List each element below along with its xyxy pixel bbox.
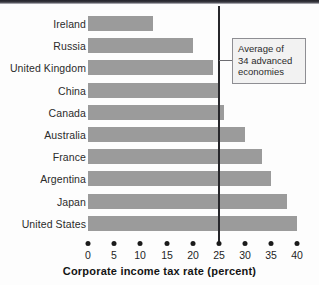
category-label-china: China [58,85,86,96]
x-tick-label: 35 [265,249,277,261]
category-label-australia: Australia [44,129,86,140]
x-tick-label: 30 [239,249,251,261]
bar-united-kingdom [88,60,213,75]
callout-line-2: 34 advanced [238,55,300,67]
category-label-united-states: United States [22,218,86,229]
axis-tick-dot [295,241,300,246]
axis-tick-dot [86,241,91,246]
x-tick-label: 10 [134,249,146,261]
callout-line-3: economies [238,66,300,78]
corporate-tax-rate-bar-chart: Ireland Russia United Kingdom China Cana… [0,0,319,285]
bar-ireland [88,16,153,31]
bar-row: China [0,83,319,98]
bar-row: Australia [0,127,319,142]
category-label-argentina: Argentina [40,173,86,184]
x-axis-title: Corporate income tax rate (percent) [0,265,319,277]
category-label-canada: Canada [49,107,86,118]
bar-row: Japan [0,194,319,209]
bar-australia [88,127,245,142]
axis-tick-dot [243,241,248,246]
category-label-russia: Russia [53,40,86,51]
x-tick-label: 25 [213,249,225,261]
category-label-france: France [53,151,86,162]
axis-tick-dot [269,241,274,246]
category-label-japan: Japan [57,196,86,207]
bar-japan [88,194,287,209]
bar-row: France [0,149,319,164]
callout-line-1: Average of [238,43,300,55]
bar-russia [88,38,193,53]
axis-tick-dot [112,241,117,246]
x-axis-tick-labels: 0 5 10 15 20 25 30 35 40 [0,249,319,263]
plot-area: Ireland Russia United Kingdom China Cana… [0,0,319,285]
bar-row: United States [0,216,319,231]
x-tick-label: 40 [291,249,303,261]
bar-row: Argentina [0,171,319,186]
bar-row: Canada [0,105,319,120]
x-tick-label: 0 [85,249,91,261]
average-annotation-callout: Average of 34 advanced economies [232,38,306,84]
axis-tick-dot [138,241,143,246]
callout-leader-line [219,60,232,61]
average-reference-line [218,6,220,243]
bar-united-states [88,216,297,231]
x-tick-label: 5 [111,249,117,261]
x-tick-label: 20 [187,249,199,261]
bar-canada [88,105,224,120]
bar-france [88,149,262,164]
x-tick-label: 15 [161,249,173,261]
axis-tick-dot [165,241,170,246]
bar-china [88,83,219,98]
axis-tick-dot [217,241,222,246]
bar-row: Ireland [0,16,319,31]
category-label-united-kingdom: United Kingdom [10,62,86,73]
category-label-ireland: Ireland [53,18,86,29]
axis-tick-dot [191,241,196,246]
bar-argentina [88,171,271,186]
